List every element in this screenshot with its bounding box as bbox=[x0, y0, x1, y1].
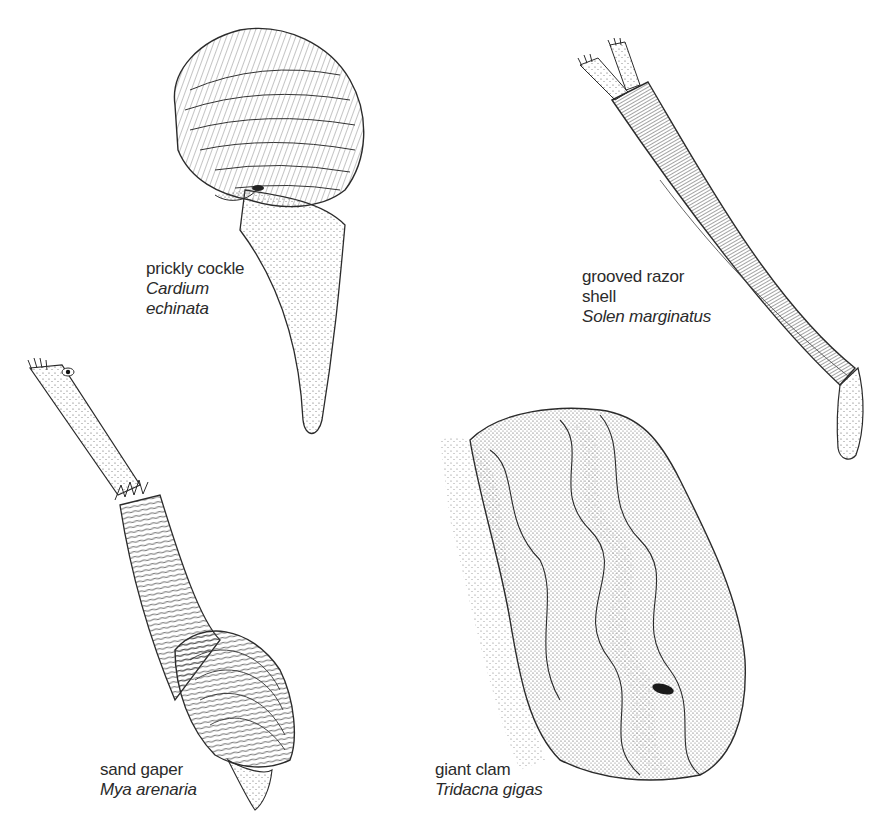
grooved-razor-shell-drawing bbox=[578, 38, 863, 459]
prickly-cockle-label: prickly cockle Cardium echinata bbox=[146, 259, 244, 319]
latin-name-line-2: echinata bbox=[146, 299, 244, 319]
common-name: prickly cockle bbox=[146, 259, 244, 279]
bivalve-illustration-plate: prickly cockle Cardium echinata grooved … bbox=[0, 0, 889, 836]
latin-name: Tridacna gigas bbox=[435, 780, 542, 800]
latin-name-line-1: Cardium bbox=[146, 279, 244, 299]
giant-clam-label: giant clam Tridacna gigas bbox=[435, 760, 542, 800]
prickly-cockle-drawing bbox=[174, 28, 363, 433]
sand-gaper-label: sand gaper Mya arenaria bbox=[100, 760, 197, 800]
common-name: giant clam bbox=[435, 760, 542, 780]
sand-gaper-drawing bbox=[28, 358, 294, 810]
common-name-line-2: shell bbox=[582, 287, 711, 307]
illustrations bbox=[0, 0, 889, 836]
grooved-razor-shell-label: grooved razor shell Solen marginatus bbox=[582, 267, 711, 327]
giant-clam-drawing bbox=[440, 408, 745, 780]
common-name-line-1: grooved razor bbox=[582, 267, 711, 287]
latin-name: Mya arenaria bbox=[100, 780, 197, 800]
common-name: sand gaper bbox=[100, 760, 197, 780]
latin-name: Solen marginatus bbox=[582, 307, 711, 327]
